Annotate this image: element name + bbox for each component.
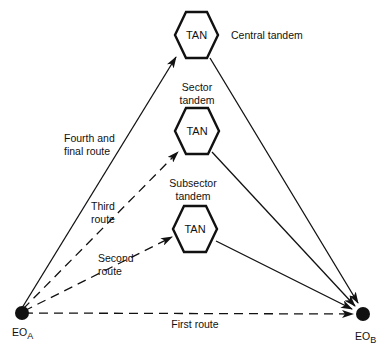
- first-route-line: [24, 313, 353, 314]
- routing-diagram: TAN Central tandem Sector tandem TAN Sub…: [0, 0, 389, 350]
- central-tandem-node: TAN: [175, 12, 218, 58]
- eo-a-node: [15, 306, 29, 320]
- eo-a-label-main: EO: [12, 326, 27, 338]
- fourth-route-label-1: Fourth and: [64, 132, 115, 144]
- sector-tandem-label-1: Sector: [182, 81, 213, 93]
- eo-b-node: [356, 307, 370, 321]
- eo-b-label-main: EO: [355, 330, 370, 342]
- eo-a-label: EOA: [12, 326, 33, 341]
- sector-tandem-node: TAN: [175, 108, 219, 154]
- third-route-line: [23, 152, 178, 309]
- subsector-tan-label: TAN: [184, 223, 205, 235]
- subsector-tandem-node: TAN: [173, 206, 217, 252]
- subsector-tandem-label-1: Subsector: [169, 177, 217, 189]
- subsector-to-eob-line: [216, 241, 352, 309]
- first-route-label: First route: [171, 318, 218, 330]
- eo-b-label: EOB: [355, 330, 376, 345]
- subsector-tandem-label-2: tandem: [175, 190, 210, 202]
- sector-tan-label: TAN: [186, 125, 207, 137]
- second-route-label-2: route: [98, 265, 122, 277]
- third-route-label-1: Third: [91, 200, 115, 212]
- central-tandem-label: Central tandem: [231, 29, 303, 41]
- central-tan-label: TAN: [186, 29, 207, 41]
- fourth-route-label-2: final route: [64, 145, 110, 157]
- sector-to-eob-line: [212, 152, 355, 306]
- central-to-eob-line: [210, 58, 358, 303]
- second-route-label-1: Second: [98, 252, 134, 264]
- eo-a-subscript: A: [27, 331, 33, 341]
- sector-tandem-label-2: tandem: [179, 94, 214, 106]
- third-route-label-2: route: [91, 213, 115, 225]
- eo-b-subscript: B: [370, 335, 376, 345]
